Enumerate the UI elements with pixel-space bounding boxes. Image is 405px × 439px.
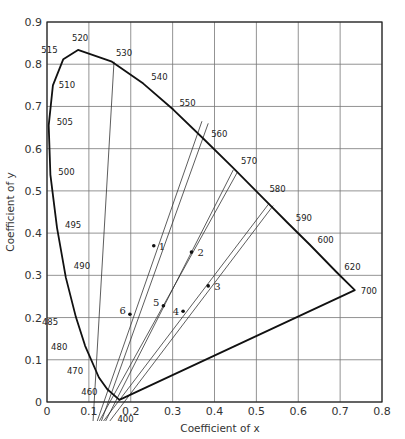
spectral-locus-curve — [49, 50, 355, 400]
wavelength-label: 520 — [72, 33, 88, 43]
data-point-label: 2 — [197, 247, 203, 258]
data-point-label: 1 — [159, 241, 165, 252]
wavelength-labels: 4004604704804854904955005055105155205305… — [41, 33, 377, 424]
y-tick-label: 0.1 — [25, 354, 43, 367]
wavelength-label: 550 — [179, 98, 195, 108]
wavelength-label: 620 — [344, 262, 360, 272]
construction-line — [93, 62, 114, 421]
x-tick-label: 0.1 — [80, 405, 98, 418]
wavelength-label: 580 — [269, 184, 285, 194]
x-tick-label: 0.8 — [373, 405, 391, 418]
construction-line — [101, 123, 208, 421]
x-axis-ticks: 00.10.20.30.40.50.60.70.8 — [44, 405, 391, 418]
x-tick-label: 0.7 — [331, 405, 349, 418]
x-tick-label: 0.4 — [206, 405, 224, 418]
wavelength-label: 470 — [67, 366, 83, 376]
data-point — [181, 309, 185, 313]
chromaticity-diagram: 00.10.20.30.40.50.60.70.8 00.10.20.30.40… — [0, 0, 405, 439]
y-tick-label: 0.2 — [25, 312, 43, 325]
data-point-label: 6 — [120, 305, 126, 316]
data-point-label: 4 — [173, 306, 179, 317]
construction-line — [99, 172, 237, 421]
x-tick-label: 0.5 — [248, 405, 266, 418]
construction-line — [110, 206, 273, 421]
wavelength-label: 480 — [51, 342, 67, 352]
wavelength-label: 495 — [65, 220, 81, 230]
data-point — [128, 312, 132, 316]
wavelength-label: 600 — [318, 235, 334, 245]
spectral-locus — [49, 50, 355, 400]
y-axis-label: Coefficient of y — [4, 172, 16, 251]
y-tick-label: 0.6 — [25, 143, 43, 156]
wavelength-label: 490 — [74, 261, 90, 271]
data-point — [162, 304, 166, 308]
x-tick-label: 0.6 — [290, 405, 308, 418]
construction-lines — [93, 62, 273, 421]
wavelength-label: 400 — [117, 414, 133, 424]
wavelength-label: 540 — [151, 72, 167, 82]
y-axis-ticks: 00.10.20.30.40.50.60.70.80.9 — [25, 16, 43, 409]
wavelength-label: 560 — [211, 129, 227, 139]
y-tick-label: 0 — [35, 396, 42, 409]
wavelength-label: 505 — [57, 117, 73, 127]
x-tick-label: 0.3 — [164, 405, 182, 418]
wavelength-label: 460 — [81, 387, 97, 397]
data-point-label: 5 — [153, 297, 159, 308]
wavelength-label: 700 — [361, 286, 377, 296]
wavelength-label: 570 — [241, 156, 257, 166]
construction-line — [97, 121, 202, 421]
wavelength-label: 510 — [59, 80, 75, 90]
y-tick-label: 0.3 — [25, 269, 43, 282]
y-tick-label: 0.7 — [25, 100, 43, 113]
wavelength-label: 515 — [41, 45, 57, 55]
x-tick-label: 0 — [44, 405, 51, 418]
data-point — [152, 244, 156, 248]
y-tick-label: 0.8 — [25, 58, 43, 71]
wavelength-label: 590 — [296, 213, 312, 223]
data-point — [206, 284, 210, 288]
y-tick-label: 0.4 — [25, 227, 43, 240]
y-tick-label: 0.9 — [25, 16, 43, 29]
data-point — [190, 250, 194, 254]
construction-line — [104, 204, 269, 421]
wavelength-label: 530 — [116, 48, 132, 58]
wavelength-label: 485 — [42, 317, 58, 327]
y-tick-label: 0.5 — [25, 185, 43, 198]
data-point-label: 3 — [214, 281, 220, 292]
data-points: 123456 — [120, 241, 221, 317]
x-axis-label: Coefficient of x — [180, 422, 259, 434]
wavelength-label: 500 — [58, 167, 74, 177]
